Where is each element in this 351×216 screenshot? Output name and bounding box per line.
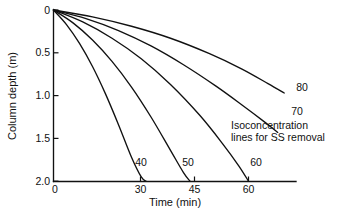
caption-fragment [0, 205, 351, 216]
y-tick-labels-group: 0 0.5 1.0 1.5 2.0 [35, 4, 50, 187]
x-tick-label-0: 0 [52, 183, 58, 195]
y-tick-label-1-5: 1.5 [35, 132, 50, 144]
isoconcentration-note-line2: lines for SS removal [231, 131, 325, 143]
x-ticks-group [141, 177, 249, 182]
y-tick-label-0: 0 [44, 4, 50, 16]
curve-label-70: 70 [291, 105, 303, 117]
curve-60 [54, 10, 249, 181]
curve-label-80: 80 [296, 81, 308, 93]
y-tick-label-2-0: 2.0 [35, 175, 50, 187]
y-axis-title: Column depth (m) [6, 52, 18, 140]
curve-70 [54, 10, 278, 132]
y-tick-label-0-5: 0.5 [35, 46, 50, 58]
y-ticks-group [54, 10, 59, 181]
curve-40 [54, 10, 147, 181]
curve-label-60: 60 [250, 156, 262, 168]
x-tick-labels-group: 0 30 45 60 [52, 183, 254, 195]
figure-container: 0 0.5 1.0 1.5 2.0 0 30 45 60 Time (min) … [0, 0, 351, 216]
curve-80 [54, 10, 285, 93]
x-tick-label-45: 45 [189, 183, 201, 195]
curve-label-50: 50 [182, 156, 194, 168]
isoconcentration-note: Isoconcentration lines for SS removal [231, 119, 325, 143]
x-tick-label-60: 60 [243, 183, 255, 195]
x-tick-label-30: 30 [135, 183, 147, 195]
y-tick-label-1-0: 1.0 [35, 89, 50, 101]
isoconcentration-note-line1: Isoconcentration [231, 119, 308, 131]
isoconcentration-chart: 0 0.5 1.0 1.5 2.0 0 30 45 60 Time (min) … [0, 0, 351, 216]
curve-label-40: 40 [135, 156, 147, 168]
